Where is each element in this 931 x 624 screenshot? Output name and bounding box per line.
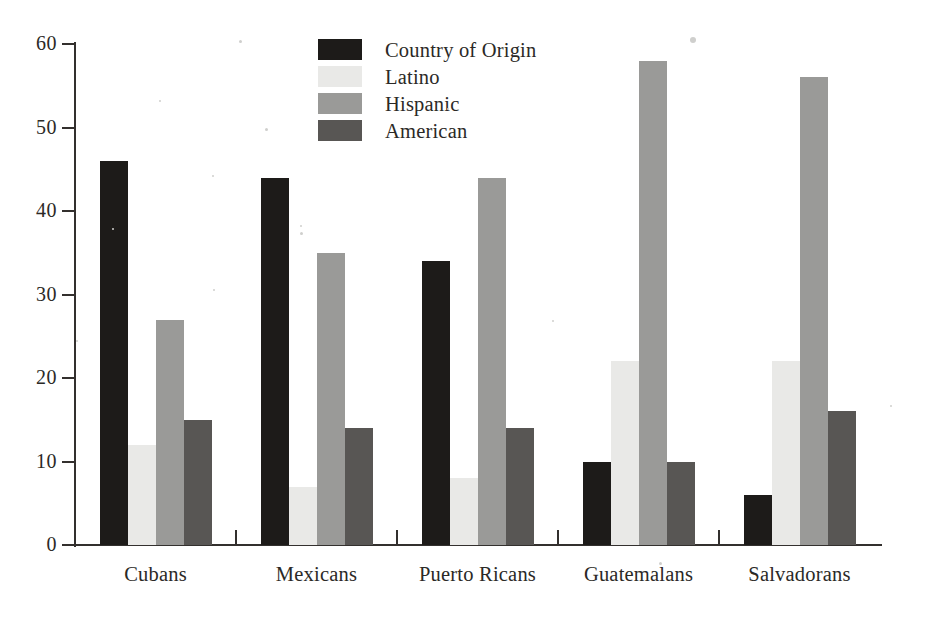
x-axis-category-label: Puerto Ricans (397, 562, 558, 586)
bar (667, 462, 695, 546)
bar (611, 361, 639, 545)
bar (289, 487, 317, 545)
x-axis-category-label: Salvadorans (719, 562, 880, 586)
bar (100, 161, 128, 545)
y-axis-tick (62, 294, 76, 296)
legend-swatch-hispanic (318, 93, 362, 114)
x-axis-category-label: Guatemalans (558, 562, 719, 586)
y-axis-tick (62, 544, 76, 546)
x-axis-category-label: Cubans (75, 562, 236, 586)
y-axis-tick-label: 0 (13, 534, 57, 554)
scan-speckle (890, 405, 892, 407)
bar (639, 61, 667, 545)
x-axis-category-label: Mexicans (236, 562, 397, 586)
y-axis-tick-label: 50 (13, 117, 57, 137)
legend-label-hispanic: Hispanic (385, 92, 459, 116)
bar-group (100, 44, 212, 545)
legend-item: American (318, 117, 536, 144)
legend-label-country-of-origin: Country of Origin (385, 38, 536, 62)
bar (317, 253, 345, 545)
chart-legend: Country of Origin Latino Hispanic Americ… (318, 36, 536, 144)
bar (128, 445, 156, 545)
y-axis-tick (62, 461, 76, 463)
bar (422, 261, 450, 545)
bar (478, 178, 506, 545)
legend-item: Hispanic (318, 90, 536, 117)
bar-chart-figure: 0102030405060 CubansMexicansPuerto Rican… (0, 0, 931, 624)
bar (583, 462, 611, 546)
bar (744, 495, 772, 545)
bar (184, 420, 212, 545)
y-axis-tick (62, 127, 76, 129)
bar-group (583, 44, 695, 545)
y-axis-tick-label: 20 (13, 367, 57, 387)
legend-item: Latino (318, 63, 536, 90)
y-axis-tick (62, 210, 76, 212)
y-axis-tick-label: 30 (13, 284, 57, 304)
scan-speckle (690, 37, 696, 43)
bar (156, 320, 184, 545)
legend-label-latino: Latino (385, 65, 440, 89)
legend-item: Country of Origin (318, 36, 536, 63)
legend-label-american: American (385, 119, 467, 143)
y-axis-tick (62, 43, 76, 45)
bar (828, 411, 856, 545)
bar-group (744, 44, 856, 545)
legend-swatch-country-of-origin (318, 39, 362, 60)
bar (261, 178, 289, 545)
bar (345, 428, 373, 545)
legend-swatch-american (318, 120, 362, 141)
legend-swatch-latino (318, 66, 362, 87)
y-axis-tick-label: 40 (13, 200, 57, 220)
y-axis-tick-label: 60 (13, 33, 57, 53)
y-axis-tick (62, 377, 76, 379)
bar (506, 428, 534, 545)
y-axis-tick-label: 10 (13, 451, 57, 471)
bar (450, 478, 478, 545)
bar (800, 77, 828, 545)
bar (772, 361, 800, 545)
scan-speckle (239, 40, 242, 43)
